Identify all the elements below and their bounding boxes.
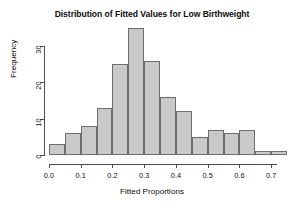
histogram-bar xyxy=(271,151,287,155)
x-axis-tick-label: 0.1 xyxy=(70,171,92,180)
x-axis-line xyxy=(49,164,277,165)
x-axis-tick xyxy=(239,164,240,168)
x-axis-tick-label: 0.0 xyxy=(38,171,60,180)
histogram-bar xyxy=(208,130,224,155)
histogram-bar xyxy=(97,108,113,155)
x-axis-tick-label: 0.6 xyxy=(228,171,250,180)
x-axis-tick xyxy=(81,164,82,168)
x-axis-tick xyxy=(176,164,177,168)
x-axis-tick-label: 0.5 xyxy=(197,171,219,180)
histogram-bar xyxy=(112,64,128,155)
histogram-figure: Distribution of Fitted Values for Low Bi… xyxy=(0,0,304,214)
x-axis-tick-label: 0.7 xyxy=(260,171,282,180)
histogram-bar xyxy=(160,97,176,155)
histogram-bar xyxy=(239,130,255,155)
y-axis-line xyxy=(44,46,45,156)
y-axis-tick-label: 0 xyxy=(34,155,43,159)
y-axis-tick-label: 30 xyxy=(34,46,43,54)
x-axis-tick xyxy=(208,164,209,168)
histogram-bar xyxy=(255,151,271,155)
x-axis-title: Fitted Proportions xyxy=(0,187,304,196)
histogram-bar xyxy=(176,111,192,155)
histogram-bar xyxy=(49,144,65,155)
histogram-bar xyxy=(144,61,160,155)
histogram-bar xyxy=(81,126,97,155)
chart-title: Distribution of Fitted Values for Low Bi… xyxy=(0,9,304,19)
histogram-bars xyxy=(49,28,287,155)
plot-area xyxy=(49,28,287,155)
y-axis-title: Frequency xyxy=(9,40,18,78)
x-axis-tick-label: 0.4 xyxy=(165,171,187,180)
histogram-bar xyxy=(192,137,208,155)
x-axis-tick xyxy=(271,164,272,168)
x-axis-tick-label: 0.2 xyxy=(101,171,123,180)
x-axis-tick-label: 0.3 xyxy=(133,171,155,180)
x-axis-tick xyxy=(112,164,113,168)
histogram-bar xyxy=(224,133,240,155)
x-axis-tick xyxy=(49,164,50,168)
y-axis-tick-label: 20 xyxy=(34,82,43,90)
histogram-bar xyxy=(65,133,81,155)
histogram-bar xyxy=(128,28,144,155)
y-axis-tick-label: 10 xyxy=(34,118,43,126)
x-axis-tick xyxy=(144,164,145,168)
